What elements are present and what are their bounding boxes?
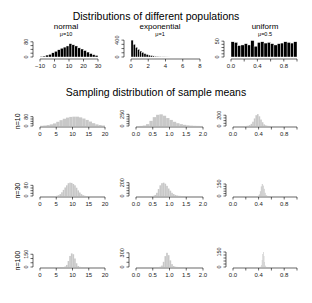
x-tick-label: 20 [102, 201, 109, 207]
histogram-bar [55, 51, 58, 57]
histogram-bar [89, 122, 92, 126]
histogram-bar [161, 183, 163, 196]
histogram-bar [164, 184, 166, 196]
histogram-bar [144, 54, 146, 57]
histogram-bar [155, 56, 157, 57]
sample-size-label: n=30 [14, 183, 21, 199]
histogram-bar [176, 195, 178, 196]
histogram-bar [131, 40, 133, 57]
histogram-bar [271, 44, 274, 57]
histogram-bar [259, 116, 261, 126]
histogram-bar [77, 190, 79, 196]
x-tick-label: 0.4 [254, 131, 263, 137]
y-tick-label: 80 [23, 39, 29, 45]
histogram-bar [58, 195, 60, 196]
histogram-bar [159, 114, 162, 126]
histogram-panel: 0.00.40.80150 [216, 179, 297, 207]
histogram-bar [158, 189, 160, 196]
x-tick-label: 20 [102, 131, 109, 137]
x-tick-label: 15 [85, 131, 92, 137]
histogram-panel: 024680400 [114, 36, 202, 69]
x-tick-label: 15 [85, 201, 92, 207]
histogram-bar [148, 55, 150, 57]
histogram-bar [255, 115, 257, 126]
y-tick-label: 150 [216, 247, 222, 256]
y-tick-label: 0 [216, 265, 222, 268]
histogram-bar [186, 125, 189, 126]
y-tick-label: 400 [114, 36, 120, 45]
histogram-bar [274, 45, 277, 57]
x-tick-label: 0 [129, 63, 133, 69]
y-tick-label: 0 [119, 124, 125, 127]
histogram-bar [257, 42, 260, 57]
y-tick-label: 0 [119, 265, 125, 268]
histogram-bar [72, 45, 75, 57]
histogram-bar [75, 46, 78, 57]
x-tick-label: 10 [69, 131, 76, 137]
histogram-bar [57, 50, 60, 57]
x-tick-label: 4 [164, 63, 168, 69]
histogram-bar [79, 117, 82, 126]
histogram-bar [47, 125, 50, 126]
histogram-bar [267, 42, 270, 57]
histogram-bar [261, 186, 262, 196]
histogram-bar [82, 119, 85, 126]
y-tick-label: 0 [23, 194, 29, 197]
histogram-panel: 05101520080n=10 [14, 113, 109, 137]
histogram-bar [251, 41, 254, 57]
histogram-bar [66, 265, 68, 267]
histogram-bar [264, 262, 265, 267]
histogram-bar [40, 56, 43, 57]
x-tick-label: 0.8 [280, 131, 289, 137]
histogram-bar [133, 44, 135, 57]
histogram-grid: −1001020300800246804000.00.40.8050051015… [0, 0, 312, 303]
x-tick-label: 1.5 [182, 272, 191, 278]
histogram-bar [69, 256, 71, 267]
histogram-bar [277, 44, 280, 57]
histogram-bar [95, 55, 98, 57]
histogram-bar [180, 124, 183, 126]
histogram-bar [241, 45, 244, 57]
y-tick-label: 300 [119, 248, 125, 257]
x-tick-label: 0.5 [149, 131, 158, 137]
histogram-bar [43, 56, 46, 57]
x-tick-label: 10 [66, 63, 73, 69]
histogram-bar [164, 256, 166, 267]
histogram-bar [73, 117, 76, 126]
y-tick-label: 80 [23, 182, 29, 188]
histogram-panel: 0.00.51.01.52.00250 [119, 110, 208, 137]
y-tick-label: 0 [23, 124, 29, 127]
histogram-bar [53, 123, 56, 126]
histogram-bar [150, 56, 152, 57]
x-tick-label: 0.0 [132, 272, 141, 278]
histogram-bar [163, 116, 166, 126]
histogram-bar [142, 52, 144, 57]
histogram-bar [287, 42, 290, 57]
histogram-bar [146, 54, 148, 57]
histogram-bar [159, 185, 161, 196]
y-tick-label: 0 [23, 55, 29, 58]
x-tick-label: 1.0 [165, 201, 174, 207]
histogram-bar [52, 53, 55, 57]
histogram-bar [262, 260, 263, 267]
histogram-bar [63, 190, 65, 196]
histogram-bar [257, 114, 259, 126]
histogram-bar [244, 44, 247, 57]
y-tick-label: 0 [216, 124, 222, 127]
histogram-bar [66, 118, 69, 126]
histogram-bar [170, 260, 172, 267]
histogram-bar [173, 122, 176, 126]
x-tick-label: 0.8 [280, 201, 289, 207]
histogram-bar [64, 187, 66, 196]
histogram-panel: 0.00.40.8050 [214, 38, 297, 69]
histogram-bar [140, 51, 142, 57]
histogram-panel: 0.00.51.01.52.00300 [119, 248, 208, 278]
sample-size-label: n=100 [14, 251, 21, 271]
histogram-bar [86, 120, 89, 126]
histogram-bar [281, 43, 284, 57]
histogram-bar [163, 183, 165, 196]
histogram-bar [92, 55, 95, 57]
histogram-bar [78, 48, 81, 57]
histogram-bar [254, 118, 256, 126]
histogram-bar [60, 194, 62, 196]
